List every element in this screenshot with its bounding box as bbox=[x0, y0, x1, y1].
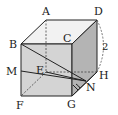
label-D: D bbox=[94, 5, 103, 18]
label-A: A bbox=[41, 5, 51, 18]
label-N: N bbox=[86, 81, 96, 94]
label-C: C bbox=[63, 32, 71, 45]
label-F: F bbox=[16, 99, 24, 112]
cube-diagram: A D B C M E H N F G 2 bbox=[0, 0, 118, 115]
label-E: E bbox=[36, 64, 44, 77]
label-G: G bbox=[67, 98, 76, 111]
label-M: M bbox=[6, 65, 17, 78]
label-B: B bbox=[9, 38, 17, 51]
label-H: H bbox=[99, 69, 109, 82]
front-face bbox=[21, 44, 72, 96]
side-length-label: 2 bbox=[102, 41, 108, 52]
